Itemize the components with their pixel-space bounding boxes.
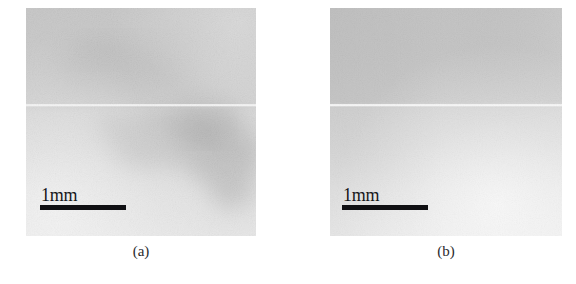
- panel-a: 1mm: [26, 8, 256, 236]
- panel-a-caption: (a): [26, 243, 256, 260]
- panel-a-scalebar-rule: [40, 205, 126, 210]
- panel-b-caption: (b): [330, 243, 562, 260]
- panel-b-scalebar-label: 1mm: [342, 186, 428, 204]
- panel-b: 1mm: [330, 8, 562, 236]
- panel-b-scalebar-rule: [342, 205, 428, 210]
- panel-b-scalebar: 1mm: [342, 186, 428, 210]
- figure-root: 1mm (a): [0, 0, 576, 284]
- panel-a-scalebar: 1mm: [40, 186, 126, 210]
- panel-a-scalebar-label: 1mm: [40, 186, 126, 204]
